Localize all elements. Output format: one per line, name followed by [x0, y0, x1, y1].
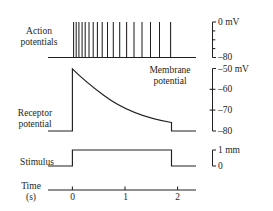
axis-label-membrane-50: –50 mV	[218, 64, 249, 75]
annotation-membrane-potential-line2: potential	[134, 76, 206, 87]
stimulus-trace	[48, 150, 196, 166]
label-receptor-potential-line1: Receptor	[2, 108, 68, 119]
label-stimulus: Stimulus	[6, 157, 68, 168]
axis-label-stimulus-0: 0	[218, 161, 223, 172]
label-time-line1: Time	[6, 181, 56, 192]
stimulus-axis	[213, 150, 217, 166]
label-action-potentials-line2: potentials	[8, 37, 70, 48]
sensory-receptor-figure: Action potentials 0 mV –80 Receptor pote…	[0, 0, 273, 211]
time-tick-label-1: 1	[117, 192, 134, 203]
action-potentials-panel	[48, 22, 196, 58]
time-tick-label-2: 2	[169, 192, 186, 203]
time-tick-label-0: 0	[64, 192, 81, 203]
action-potentials-spikes	[74, 22, 171, 58]
axis-label-membrane-60: –60	[218, 84, 232, 95]
label-receptor-potential-line2: potential	[2, 119, 68, 130]
axis-label-action-potentials-top: 0 mV	[218, 17, 239, 28]
axis-label-membrane-80: –80	[218, 126, 232, 137]
action-potentials-axis	[213, 22, 217, 58]
label-time-line2: (s)	[6, 192, 56, 203]
label-action-potentials-line1: Action	[8, 26, 70, 37]
membrane-potential-axis	[210, 69, 216, 132]
annotation-membrane-potential-line1: Membrane	[134, 65, 206, 76]
axis-label-membrane-70: –70	[218, 105, 232, 116]
stimulus-panel	[48, 150, 196, 166]
axis-label-stimulus-1mm: 1 mm	[218, 145, 240, 156]
time-axis	[48, 187, 196, 191]
axis-label-action-potentials-bottom: –80	[218, 52, 232, 63]
